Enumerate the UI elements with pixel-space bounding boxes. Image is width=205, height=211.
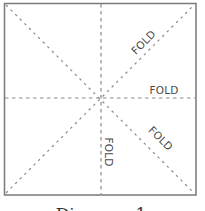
fold-label-diagonal-up: FOLD <box>129 28 158 57</box>
fold-label-diagonal-down: FOLD <box>146 124 175 153</box>
fold-label-horizontal: FOLD <box>149 84 178 96</box>
fold-label-vertical: FOLD <box>103 137 115 166</box>
diagram-caption: Diagram 1 <box>56 204 147 211</box>
fold-diagram: FOLD FOLD FOLD FOLD Diagram 1 <box>0 0 205 211</box>
